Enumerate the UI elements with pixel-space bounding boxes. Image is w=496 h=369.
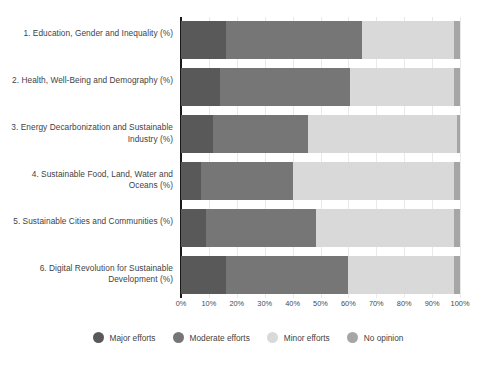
- x-tick-label: 100%: [451, 299, 470, 308]
- legend-label: Major efforts: [110, 333, 156, 343]
- stacked-bar-chart: 1. Education, Gender and Inequality (%)2…: [0, 0, 496, 369]
- bar-segment[interactable]: [454, 162, 460, 200]
- bar-row[interactable]: [181, 209, 460, 247]
- x-tick-label: 50%: [313, 299, 328, 308]
- bar-row[interactable]: [181, 256, 460, 294]
- bar-segment[interactable]: [362, 21, 454, 59]
- gridline-100: [460, 17, 461, 298]
- legend-label: No opinion: [364, 333, 404, 343]
- legend-label: Minor efforts: [284, 333, 330, 343]
- x-tick-label: 20%: [229, 299, 244, 308]
- bar-segment[interactable]: [181, 162, 201, 200]
- category-label: 4. Sustainable Food, Land, Water and Oce…: [8, 169, 173, 192]
- x-tick-label: 70%: [369, 299, 384, 308]
- legend-item[interactable]: Minor efforts: [267, 332, 330, 343]
- bar-segment[interactable]: [316, 209, 454, 247]
- category-label: 6. Digital Revolution for Sustainable De…: [8, 263, 173, 286]
- circle-swatch-icon: [173, 332, 184, 343]
- circle-swatch-icon: [93, 332, 104, 343]
- bar-segment[interactable]: [181, 21, 226, 59]
- category-label: 2. Health, Well-Being and Demography (%): [8, 75, 173, 87]
- legend-item[interactable]: Moderate efforts: [173, 332, 250, 343]
- bar-segment[interactable]: [181, 209, 206, 247]
- category-axis-labels: 1. Education, Gender and Inequality (%)2…: [8, 17, 173, 298]
- x-tick-label: 60%: [341, 299, 356, 308]
- circle-swatch-icon: [267, 332, 278, 343]
- x-tick-label: 90%: [425, 299, 440, 308]
- bar-segment[interactable]: [206, 209, 316, 247]
- legend-label: Moderate efforts: [190, 333, 250, 343]
- bar-rows: [181, 17, 460, 298]
- legend-item[interactable]: Major efforts: [93, 332, 156, 343]
- bar-segment[interactable]: [454, 21, 460, 59]
- plot-area: [181, 17, 460, 298]
- value-axis-tick-labels: 0%10%20%30%40%50%60%70%80%90%100%: [181, 299, 460, 313]
- bar-segment[interactable]: [213, 115, 308, 153]
- x-tick-label: 10%: [201, 299, 216, 308]
- bar-segment[interactable]: [181, 256, 226, 294]
- legend-item[interactable]: No opinion: [347, 332, 404, 343]
- bar-segment[interactable]: [226, 21, 363, 59]
- bar-segment[interactable]: [308, 115, 457, 153]
- bar-segment[interactable]: [457, 115, 460, 153]
- bar-row[interactable]: [181, 21, 460, 59]
- x-tick-label: 80%: [397, 299, 412, 308]
- chart-legend: Major effortsModerate effortsMinor effor…: [0, 332, 496, 343]
- bar-row[interactable]: [181, 162, 460, 200]
- category-label: 3. Energy Decarbonization and Sustainabl…: [8, 122, 173, 145]
- category-label: 5. Sustainable Cities and Communities (%…: [8, 216, 173, 228]
- bar-segment[interactable]: [220, 68, 350, 106]
- category-label: 1. Education, Gender and Inequality (%): [8, 28, 173, 40]
- bar-row[interactable]: [181, 68, 460, 106]
- bar-segment[interactable]: [181, 115, 213, 153]
- bar-segment[interactable]: [454, 256, 460, 294]
- x-tick-label: 0%: [176, 299, 187, 308]
- bar-segment[interactable]: [454, 68, 460, 106]
- circle-swatch-icon: [347, 332, 358, 343]
- bar-segment[interactable]: [348, 256, 454, 294]
- bar-row[interactable]: [181, 115, 460, 153]
- bar-segment[interactable]: [350, 68, 455, 106]
- bar-segment[interactable]: [226, 256, 349, 294]
- bar-segment[interactable]: [181, 68, 220, 106]
- bar-segment[interactable]: [454, 209, 460, 247]
- bar-segment[interactable]: [293, 162, 455, 200]
- bar-segment[interactable]: [201, 162, 293, 200]
- x-tick-label: 30%: [257, 299, 272, 308]
- x-tick-label: 40%: [285, 299, 300, 308]
